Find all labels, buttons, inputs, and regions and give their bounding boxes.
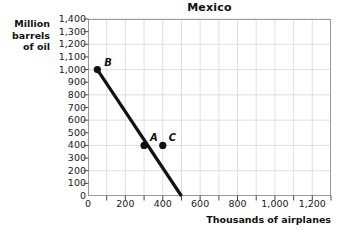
y-axis-tick-labels: 01002003004005006007008009001,0001,1001,…	[36, 19, 86, 196]
chart-figure: Mexico Million barrels of oil 0100200300…	[0, 0, 339, 232]
point-label-a: A	[150, 132, 158, 143]
y-tick-label: 1,300	[40, 26, 86, 37]
y-tick-label: 900	[40, 76, 86, 87]
chart-title: Mexico	[88, 1, 331, 14]
data-point-a	[140, 142, 147, 149]
data-point-b	[94, 66, 101, 73]
y-tick-label: 1,400	[40, 13, 86, 24]
point-label-c: C	[169, 132, 176, 143]
x-tick-label: 600	[191, 198, 209, 209]
x-tick-label: 800	[228, 198, 246, 209]
y-tick-label: 1,200	[40, 38, 86, 49]
y-tick-label: 100	[40, 177, 86, 188]
y-tick-label: 1,100	[40, 51, 86, 62]
point-label-b: B	[104, 57, 112, 68]
y-tick-label: 0	[40, 190, 86, 201]
y-tick-label: 400	[40, 139, 86, 150]
y-tick-label: 1,000	[40, 64, 86, 75]
x-tick-label: 200	[116, 198, 134, 209]
y-tick-label: 800	[40, 89, 86, 100]
x-axis-title: Thousands of airplanes	[150, 214, 331, 225]
data-point-c	[159, 142, 166, 149]
x-tick-label: 1,200	[299, 198, 326, 209]
y-tick-label: 500	[40, 127, 86, 138]
x-tick-label: 0	[85, 198, 91, 209]
x-axis-tick-labels: 02004006008001,0001,200	[88, 198, 331, 212]
y-tick-label: 300	[40, 152, 86, 163]
x-tick-label: 400	[154, 198, 172, 209]
y-tick-label: 200	[40, 165, 86, 176]
data-layer	[88, 19, 331, 196]
x-tick-label: 1,000	[261, 198, 288, 209]
plot-area: BAC	[88, 19, 331, 196]
y-tick-label: 700	[40, 102, 86, 113]
y-tick-label: 600	[40, 114, 86, 125]
